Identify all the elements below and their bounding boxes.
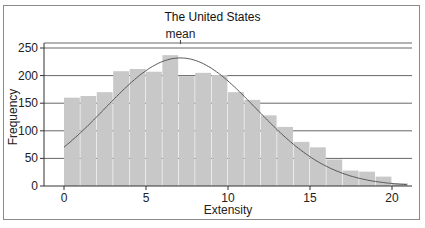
x-tick-label: 15 — [303, 191, 317, 205]
histogram-chart: 05010015020025005101520 mean Extensity F… — [0, 0, 425, 228]
histogram-bar — [195, 73, 211, 186]
histogram-bar — [162, 55, 178, 186]
histogram-bar — [146, 72, 162, 186]
y-tick-label: 150 — [18, 96, 38, 110]
histogram-bar — [212, 75, 228, 186]
histogram-bar — [80, 96, 96, 186]
histogram-bar — [244, 100, 260, 186]
y-tick-label: 50 — [25, 151, 39, 165]
x-tick-label: 0 — [61, 191, 68, 205]
histogram-bars — [64, 55, 408, 186]
y-axis-label: Frequency — [6, 89, 20, 146]
histogram-bar — [376, 177, 392, 186]
histogram-bar — [64, 98, 80, 186]
y-tick-label: 250 — [18, 41, 38, 55]
histogram-bar — [261, 115, 277, 186]
y-tick-label: 100 — [18, 124, 38, 138]
x-tick-label: 20 — [385, 191, 399, 205]
histogram-bar — [343, 171, 359, 186]
histogram-bar — [294, 142, 310, 186]
histogram-bar — [310, 147, 326, 186]
histogram-bar — [277, 127, 293, 186]
histogram-bar — [228, 92, 244, 186]
mean-annotation: mean — [165, 27, 195, 41]
y-tick-label: 200 — [18, 69, 38, 83]
histogram-bar — [97, 92, 113, 186]
histogram-bar — [179, 76, 195, 186]
x-tick-label: 5 — [143, 191, 150, 205]
y-tick-label: 0 — [31, 179, 38, 193]
histogram-bar — [113, 71, 129, 186]
x-axis-label: Extensity — [204, 203, 253, 217]
histogram-bar — [130, 69, 146, 186]
